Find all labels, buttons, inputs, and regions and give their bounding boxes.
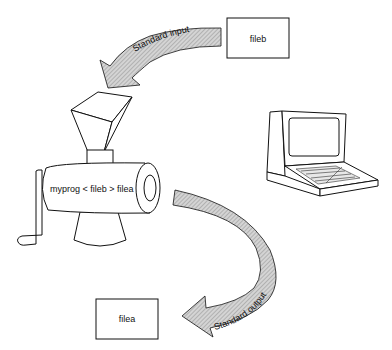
computer-terminal-icon [267,111,378,196]
input-file-box: fileb [227,18,289,58]
input-file-label: fileb [250,34,267,44]
output-file-box: filea [96,299,158,339]
stdout-arrow: Standard output [173,190,276,337]
program-command: myprog < fileb > filea [50,184,134,194]
meat-grinder-icon: myprog < fileb > filea [18,92,161,246]
stdin-arrow: Standard input [100,24,221,88]
redirection-diagram: fileb Standard input myprog < fileb > fi… [0,0,392,350]
output-file-label: filea [119,314,136,324]
